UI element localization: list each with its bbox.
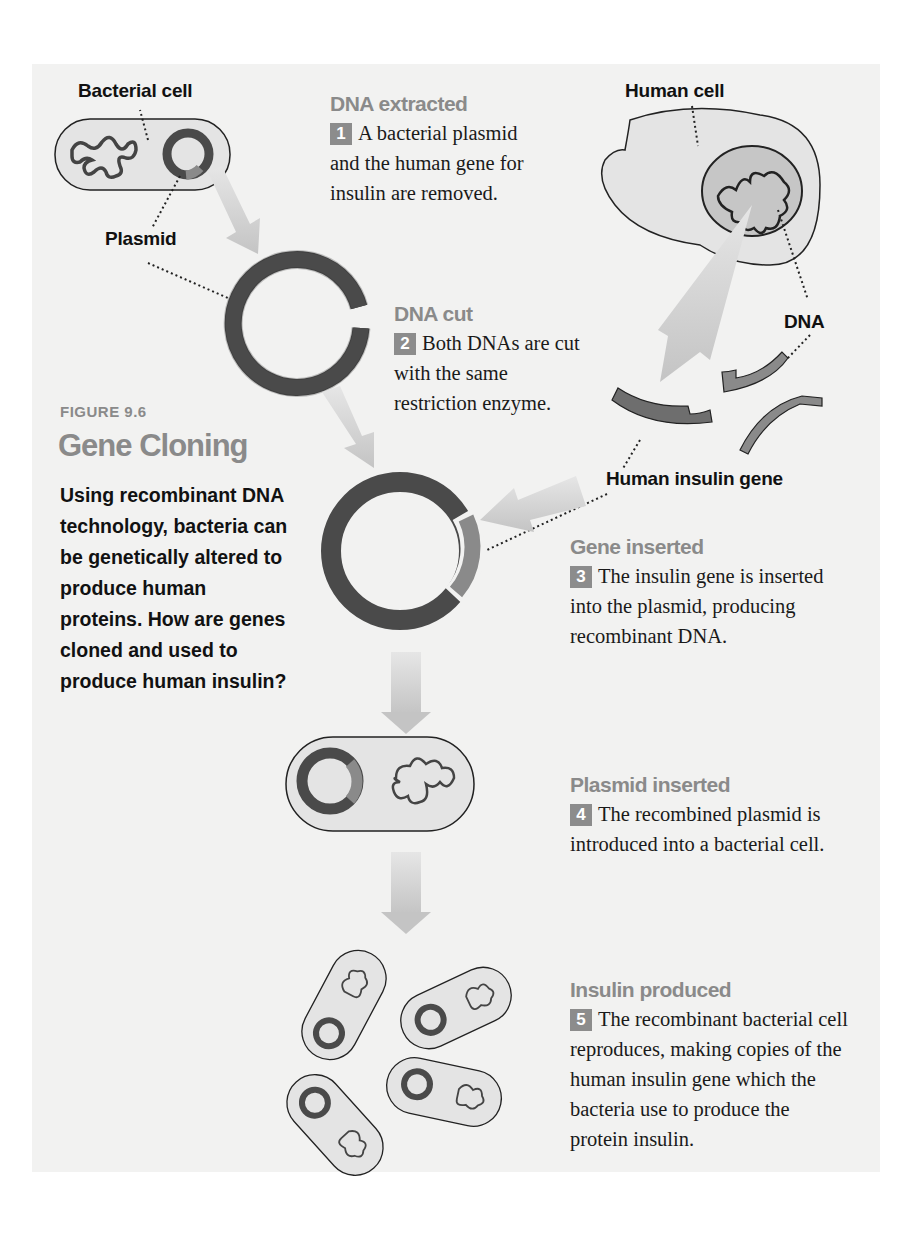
step-1-text: A bacterial plasmid and the human gene f… xyxy=(330,122,524,204)
arrow-4-icon xyxy=(381,712,431,734)
step-2: DNA cut 2Both DNAs are cut with the same… xyxy=(394,302,594,418)
bacterium-with-plasmid-icon xyxy=(286,737,474,831)
label-human-cell: Human cell xyxy=(625,80,724,102)
step-5-title: Insulin produced xyxy=(570,978,850,1002)
plasmid-leader-2 xyxy=(148,263,228,298)
label-dna: DNA xyxy=(784,311,825,333)
figure-number: FIGURE 9.6 xyxy=(60,403,147,420)
step-4-title: Plasmid inserted xyxy=(570,773,830,797)
figure-title: Gene Cloning xyxy=(58,428,248,464)
insulin-gene-leader-1 xyxy=(622,440,640,470)
step-2-title: DNA cut xyxy=(394,302,594,326)
dna-leader-2 xyxy=(786,335,810,360)
cut-plasmid-icon xyxy=(233,259,361,387)
step-5: Insulin produced 5The recombinant bacter… xyxy=(570,978,850,1154)
arrow-5-icon xyxy=(381,912,431,934)
step-4-text: The recombined plasmid is introduced int… xyxy=(570,803,824,855)
bacterial-cell-icon xyxy=(55,119,230,190)
arrow-2-icon xyxy=(322,386,374,468)
step-1-number-badge: 1 xyxy=(330,123,352,145)
recombinant-plasmid-icon xyxy=(331,482,473,620)
label-human-insulin-gene: Human insulin gene xyxy=(606,468,783,490)
arrow-4-shaft xyxy=(391,652,421,714)
step-2-text: Both DNAs are cut with the same restrict… xyxy=(394,332,580,414)
human-cell-icon xyxy=(602,109,820,265)
step-2-number-badge: 2 xyxy=(394,333,416,355)
step-3-number-badge: 3 xyxy=(570,566,592,588)
step-1-title: DNA extracted xyxy=(330,92,550,116)
arrow-5-shaft xyxy=(391,852,421,914)
figure-caption: Using recombinant DNA technology, bacter… xyxy=(60,480,290,697)
step-5-text: The recombinant bacterial cell reproduce… xyxy=(570,1008,848,1150)
bacteria-colony-icon xyxy=(275,941,520,1187)
arrow-3-icon xyxy=(480,476,586,532)
label-bacterial-cell: Bacterial cell xyxy=(78,80,192,102)
step-4-number-badge: 4 xyxy=(570,804,592,826)
step-3: Gene inserted 3The insulin gene is inser… xyxy=(570,535,860,651)
insulin-gene-fragments-icon xyxy=(612,352,822,454)
step-4: Plasmid inserted 4The recombined plasmid… xyxy=(570,773,830,859)
arrow-1-icon xyxy=(208,166,260,254)
step-3-title: Gene inserted xyxy=(570,535,860,559)
label-plasmid: Plasmid xyxy=(105,228,176,250)
step-1: DNA extracted 1A bacterial plasmid and t… xyxy=(330,92,550,208)
step-5-number-badge: 5 xyxy=(570,1009,592,1031)
step-3-text: The insulin gene is inserted into the pl… xyxy=(570,565,823,647)
